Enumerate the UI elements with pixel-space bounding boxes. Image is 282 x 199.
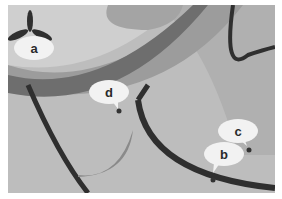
callout-label-d: d <box>89 80 129 104</box>
diagram-figure: a d c b <box>8 5 275 193</box>
marker-b <box>211 178 216 183</box>
middle-outline-stub <box>138 85 148 100</box>
marker-d <box>117 109 122 114</box>
marker-c <box>247 148 252 153</box>
callout-label-b: b <box>204 142 244 166</box>
crescent-shape <box>78 130 133 177</box>
callout-label-c: c <box>218 119 258 143</box>
callout-label-a: a <box>14 36 54 60</box>
